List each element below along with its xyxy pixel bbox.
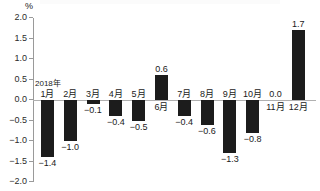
tick-label: −1.0	[9, 135, 27, 146]
tick-label: 1.0	[14, 53, 27, 64]
bar-group[interactable]: −0.68月	[196, 0, 219, 191]
bar-value-label: −1.0	[59, 142, 82, 152]
bar-value-label: 0.6	[150, 64, 173, 74]
tick-mark	[29, 38, 33, 39]
x-axis-category-label: 2月	[59, 89, 82, 99]
x-axis-category-label: 6月	[150, 102, 173, 112]
x-axis-category-label: 1月	[36, 89, 59, 99]
bar-group[interactable]: −0.55月	[127, 0, 150, 191]
bar[interactable]	[178, 100, 191, 116]
tick-label: 1.5	[14, 33, 27, 44]
bar[interactable]	[246, 100, 259, 133]
bar-group[interactable]: −1.02月	[59, 0, 82, 191]
bar-group[interactable]: 1.712月	[287, 0, 310, 191]
x-axis-category-label: 7月	[173, 89, 196, 99]
bar[interactable]	[201, 100, 214, 125]
x-axis-category-label: 3月	[82, 89, 105, 99]
bar-value-label: 0.0	[264, 89, 287, 99]
bar-value-label: −0.1	[82, 105, 105, 115]
unit-label: %	[25, 2, 33, 11]
bar[interactable]	[109, 100, 122, 116]
bar[interactable]	[292, 30, 305, 100]
tick-label: −1.5	[9, 156, 27, 167]
bar[interactable]	[155, 75, 168, 100]
tick-mark	[29, 58, 33, 59]
x-axis-category-label: 12月	[287, 102, 310, 112]
tick-mark	[29, 99, 33, 100]
tick-mark	[29, 140, 33, 141]
tick-mark	[29, 181, 33, 182]
bar-value-label: −0.5	[127, 122, 150, 132]
tick-label: 2.0	[14, 12, 27, 23]
tick-label: 0.0	[14, 94, 27, 105]
bar[interactable]	[64, 100, 77, 141]
x-axis-category-label: 5月	[127, 89, 150, 99]
tick-mark	[29, 120, 33, 121]
bar-group[interactable]: −1.41月	[36, 0, 59, 191]
bar-group[interactable]: 0.66月	[150, 0, 173, 191]
bar-value-label: −0.8	[241, 134, 264, 144]
bar[interactable]	[132, 100, 145, 121]
x-axis-category-label: 10月	[241, 89, 264, 99]
tick-mark	[29, 17, 33, 18]
x-axis-category-label: 11月	[264, 102, 287, 112]
x-axis-category-label: 8月	[196, 89, 219, 99]
bar-value-label: −0.6	[196, 126, 219, 136]
bar-value-label: −1.4	[36, 158, 59, 168]
bar-value-label: −0.4	[104, 117, 127, 127]
bar-chart: % 2.01.51.00.50.0−0.5−1.0−1.5−2.0 −1.41月…	[0, 0, 320, 191]
bar-group[interactable]: −0.810月	[241, 0, 264, 191]
bar[interactable]	[87, 100, 100, 104]
bar-group[interactable]: −0.47月	[173, 0, 196, 191]
tick-label: −0.5	[9, 115, 27, 126]
bar[interactable]	[41, 100, 54, 157]
x-axis-category-label: 4月	[104, 89, 127, 99]
tick-mark	[29, 161, 33, 162]
tick-label: −2.0	[9, 176, 27, 187]
year-annotation: 2018年	[35, 79, 61, 88]
x-axis-category-label: 9月	[218, 89, 241, 99]
tick-label: 0.5	[14, 74, 27, 85]
bar[interactable]	[223, 100, 236, 153]
bar-group[interactable]: −0.13月	[82, 0, 105, 191]
tick-mark	[29, 79, 33, 80]
bar-group[interactable]: −0.44月	[104, 0, 127, 191]
bar-value-label: −1.3	[218, 154, 241, 164]
bar-group[interactable]: 0.011月	[264, 0, 287, 191]
bar-value-label: 1.7	[287, 19, 310, 29]
bar-group[interactable]: −1.39月	[218, 0, 241, 191]
bar-value-label: −0.4	[173, 117, 196, 127]
